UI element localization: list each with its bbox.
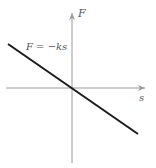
s-axis-label: s — [139, 92, 144, 103]
force-line — [8, 44, 138, 134]
force-displacement-diagram: F = −ks F s — [0, 0, 156, 168]
f-axis-label: F — [77, 7, 86, 20]
equation-label: F = −ks — [25, 41, 67, 52]
